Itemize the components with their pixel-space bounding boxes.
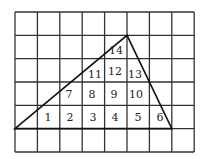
cell-label: 14 [109,44,123,57]
cell-label: 11 [88,68,102,81]
cell-label: 3 [90,111,97,124]
cell-label: 12 [108,65,122,78]
cell-label: 2 [67,111,74,124]
cell-label: 13 [128,68,142,81]
cell-label: 1 [45,111,52,124]
cell-label: 4 [112,111,119,124]
grid-lines [15,12,194,152]
grid-triangle-diagram: 1234567891011121314 [0,0,207,159]
cell-label: 8 [89,88,96,101]
cell-label: 5 [135,111,142,124]
cell-label: 7 [66,88,73,101]
cell-label: 9 [111,88,118,101]
cell-label: 6 [157,111,164,124]
cell-label: 10 [129,88,143,101]
